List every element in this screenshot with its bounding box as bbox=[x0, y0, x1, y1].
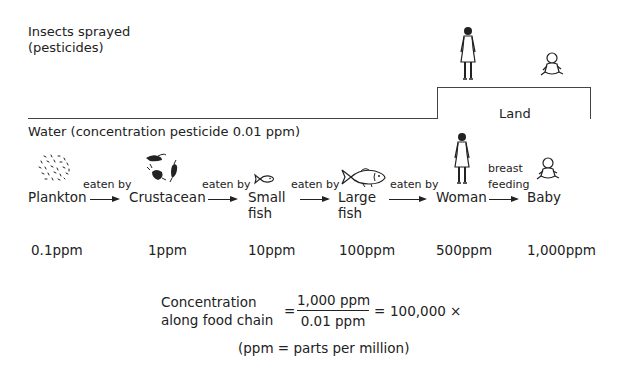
node-large-fish: Large bbox=[338, 189, 376, 206]
small-fish-icon bbox=[254, 174, 276, 184]
node-baby: Baby bbox=[527, 189, 561, 206]
formula-lhs-line2: along food chain bbox=[161, 312, 273, 328]
fraction-bar bbox=[297, 310, 369, 311]
ppm-woman: 500ppm bbox=[436, 242, 492, 258]
arrow-5 bbox=[489, 199, 517, 200]
formula-equals-2: = bbox=[374, 303, 385, 319]
node-crustacean: Crustacean bbox=[129, 189, 206, 206]
pesticides-label: (pesticides) bbox=[28, 40, 104, 56]
arrow-1 bbox=[90, 199, 118, 200]
large-fish-icon bbox=[341, 166, 387, 188]
node-woman: Woman bbox=[436, 189, 487, 206]
node-small-fish-line2: fish bbox=[248, 205, 272, 222]
ppm-large-fish: 100ppm bbox=[339, 242, 395, 258]
link-label-5-line2: feeding bbox=[488, 178, 529, 191]
water-boundary-line bbox=[28, 118, 438, 119]
land-top-line bbox=[437, 87, 591, 88]
baby-on-land-icon bbox=[540, 52, 564, 78]
formula-numerator: 1,000 ppm bbox=[297, 292, 369, 308]
node-small-fish: Small bbox=[248, 189, 286, 206]
formula-equals: = bbox=[284, 303, 295, 319]
node-plankton: Plankton bbox=[28, 189, 87, 206]
arrow-4 bbox=[389, 199, 425, 200]
node-large-fish-line2: fish bbox=[338, 205, 362, 222]
baby-icon bbox=[536, 157, 560, 181]
ppm-plankton: 0.1ppm bbox=[31, 242, 83, 258]
crustacean-icon bbox=[144, 152, 184, 186]
ppm-baby: 1,000ppm bbox=[527, 242, 596, 258]
woman-on-land-icon bbox=[458, 26, 478, 82]
formula-denominator: 0.01 ppm bbox=[297, 313, 369, 329]
link-label-3: eaten by bbox=[291, 178, 340, 191]
formula-lhs-line1: Concentration bbox=[161, 294, 257, 310]
insects-sprayed-label: Insects sprayed bbox=[28, 24, 130, 40]
land-step-vertical bbox=[437, 87, 438, 119]
woman-icon bbox=[452, 132, 472, 186]
arrow-2 bbox=[208, 199, 236, 200]
water-concentration-label: Water (concentration pesticide 0.01 ppm) bbox=[28, 124, 300, 140]
arrow-3 bbox=[300, 199, 328, 200]
ppm-small-fish: 10ppm bbox=[248, 242, 295, 258]
land-right-edge bbox=[590, 87, 591, 119]
plankton-icon bbox=[36, 153, 72, 183]
ppm-crustacean: 1ppm bbox=[148, 242, 187, 258]
link-label-2: eaten by bbox=[202, 178, 251, 191]
ppm-definition-note: (ppm = parts per million) bbox=[238, 340, 409, 356]
land-label: Land bbox=[499, 106, 531, 122]
link-label-1: eaten by bbox=[83, 178, 132, 191]
formula-result: 100,000 × bbox=[390, 303, 461, 319]
link-label-4: eaten by bbox=[390, 178, 439, 191]
link-label-5: breast bbox=[488, 162, 523, 175]
